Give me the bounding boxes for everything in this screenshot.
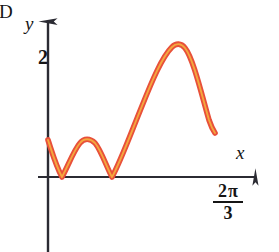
x-axis-label: x xyxy=(236,143,244,162)
fraction-numerator: 2 π xyxy=(217,182,239,201)
figure-panel: D y 2 x 2 π 3 xyxy=(0,0,279,252)
fraction-numerator-number: 2 xyxy=(218,182,227,200)
x-axis-tick-label-fraction: 2 π 3 xyxy=(213,182,243,222)
curve-path-outer xyxy=(48,44,215,177)
y-axis-label: y xyxy=(25,14,33,33)
pi-symbol: π xyxy=(228,182,238,200)
fraction-denominator: 3 xyxy=(224,203,233,222)
y-axis-tick-label-2: 2 xyxy=(38,47,48,67)
